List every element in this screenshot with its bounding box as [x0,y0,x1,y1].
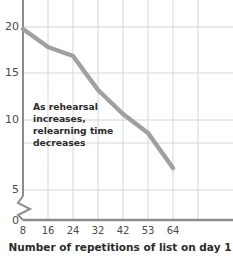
annotation-line-1: As rehearsal [33,101,98,112]
ytick-label-10: 10 [5,113,19,126]
annotation-line-2: increases, [33,113,86,124]
chart-container: 20 15 10 5 0 8 16 24 32 42 53 64 As rehe… [0,0,233,258]
x-axis-title: Number of repetitions of list on day 1 [9,241,232,253]
xtick-label-53: 53 [142,225,155,236]
xtick-label-32: 32 [92,225,105,236]
ytick-label-0: 0 [12,214,19,227]
xtick-label-42: 42 [117,225,130,236]
xtick-label-24: 24 [67,225,80,236]
line-chart: 20 15 10 5 0 8 16 24 32 42 53 64 As rehe… [0,0,233,258]
ytick-label-15: 15 [5,66,19,79]
ytick-label-5: 5 [12,183,19,196]
xtick-label-16: 16 [42,225,55,236]
xtick-label-8: 8 [20,225,26,236]
annotation-line-4: decreases [33,137,86,148]
ytick-label-20: 20 [5,20,19,33]
annotation-line-3: relearning time [33,125,113,136]
xtick-label-64: 64 [167,225,180,236]
